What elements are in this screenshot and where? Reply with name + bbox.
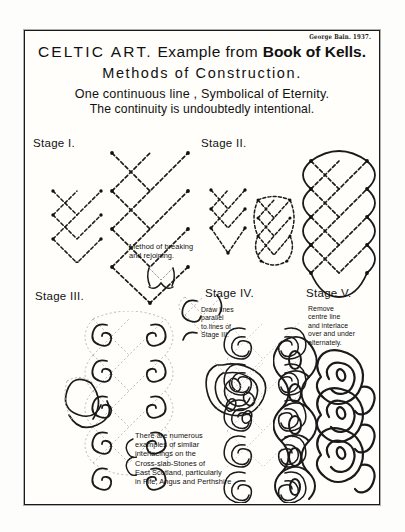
title-book-of-kells: Book of Kells.	[263, 43, 366, 60]
footer-pointer-curl	[121, 435, 137, 477]
break-rejoin-detail	[143, 265, 179, 293]
stage-label-1: Stage I.	[33, 137, 75, 149]
celtic-art-plate: George Bain. 1937. CELTIC ART. Example f…	[0, 0, 405, 532]
stage-label-3: Stage III.	[35, 290, 84, 302]
stage2-large-rounded	[297, 147, 381, 305]
note-breaking-rejoining: Method of breaking and rejoining.	[129, 242, 193, 260]
stage1-small-lattice	[47, 183, 107, 263]
page-title: CELTIC ART. Example from Book of Kells.	[25, 43, 379, 61]
stage1-narrow-lattice	[205, 183, 251, 261]
subtitle-continuity: The continuity is undoubtedly intentiona…	[25, 102, 379, 116]
stage-label-4: Stage IV.	[205, 287, 254, 299]
stage-label-5: Stage V.	[306, 287, 351, 299]
note-footer: There are numerous examples of similar i…	[135, 431, 315, 486]
plate-frame: George Bain. 1937. CELTIC ART. Example f…	[24, 30, 380, 505]
title-celtic-art: CELTIC ART.	[38, 43, 153, 60]
title-example-from: Example from	[158, 43, 263, 60]
subtitle-methods: Methods of Construction.	[25, 65, 379, 81]
stage2-small-rounded	[249, 193, 299, 273]
stage-label-2: Stage II.	[201, 137, 247, 149]
artist-signature: George Bain. 1937.	[309, 33, 371, 41]
subtitle-continuous-line: One continuous line , Symbolical of Eter…	[25, 87, 379, 101]
